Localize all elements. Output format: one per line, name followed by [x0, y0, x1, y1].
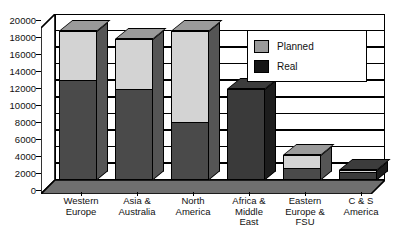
y-tick-label: 12000	[10, 84, 36, 94]
x-label-line: Africa &	[217, 196, 281, 207]
y-tick-label: 6000	[15, 135, 36, 145]
bar-front-face	[115, 39, 153, 180]
x-label-line: Eastern	[273, 196, 337, 207]
bar-side-face	[97, 22, 108, 180]
bar-western-europe[interactable]	[59, 31, 97, 180]
x-label-line: FSU	[273, 217, 337, 228]
x-label-line: Asia &	[105, 196, 169, 207]
y-tick-label: 4000	[15, 152, 36, 162]
legend: Planned Real	[247, 30, 367, 82]
bar-side-face	[153, 30, 164, 180]
bar-front-face	[171, 31, 209, 180]
y-tick-label: 2000	[15, 169, 36, 179]
bar-chart: 20000 18000 16000 14000 12000 10000 8000…	[0, 0, 397, 243]
bar-front-face	[283, 155, 321, 180]
legend-item-real[interactable]: Real	[254, 56, 360, 76]
x-label-line: East	[217, 217, 281, 228]
bar-side-face	[265, 80, 276, 180]
bar-segment-real[interactable]	[339, 172, 377, 180]
bar-front-face	[59, 31, 97, 180]
bar-c-s-america[interactable]	[339, 170, 377, 180]
bar-africa-middle-east[interactable]	[227, 89, 265, 180]
legend-swatch-real	[254, 60, 269, 73]
bar-asia-australia[interactable]	[115, 39, 153, 180]
x-label-line: America	[161, 207, 225, 218]
y-tick-label: 10000	[10, 101, 36, 111]
bar-front-face	[339, 170, 377, 180]
bar-side-face	[209, 22, 220, 180]
x-tick-label-western-europe: Western Europe	[49, 196, 113, 217]
axis-side-wall	[41, 14, 55, 194]
bar-segment-real[interactable]	[227, 89, 265, 180]
x-label-line: Europe	[49, 207, 113, 218]
legend-swatch-planned	[254, 40, 269, 53]
legend-label-real: Real	[277, 61, 298, 72]
x-axis: Western Europe Asia & Australia North Am…	[41, 196, 385, 243]
bar-segment-real[interactable]	[115, 89, 153, 180]
x-label-line: C & S	[329, 196, 393, 207]
y-tick-label: 16000	[10, 50, 36, 60]
bar-north-america[interactable]	[171, 31, 209, 180]
axis-floor	[41, 180, 385, 194]
x-label-line: North	[161, 196, 225, 207]
y-tick-label: 8000	[15, 118, 36, 128]
x-tick-label-asia-australia: Asia & Australia	[105, 196, 169, 217]
plot-area: Planned Real	[41, 14, 385, 194]
bar-segment-real[interactable]	[171, 122, 209, 180]
legend-item-planned[interactable]: Planned	[254, 36, 360, 56]
bar-segment-real[interactable]	[283, 168, 321, 180]
x-label-line: America	[329, 207, 393, 218]
bar-segment-planned[interactable]	[171, 31, 209, 122]
bar-segment-planned[interactable]	[115, 39, 153, 89]
y-tick-label: 20000	[10, 16, 36, 26]
y-tick-label: 14000	[10, 67, 36, 77]
bar-segment-real[interactable]	[59, 80, 97, 180]
bar-eastern-europe-fsu[interactable]	[283, 155, 321, 180]
x-label-line: Western	[49, 196, 113, 207]
y-axis: 20000 18000 16000 14000 12000 10000 8000…	[0, 0, 36, 243]
legend-label-planned: Planned	[277, 41, 314, 52]
bar-segment-planned[interactable]	[283, 155, 321, 167]
bar-segment-planned[interactable]	[59, 31, 97, 81]
x-tick-label-c-s-america: C & S America	[329, 196, 393, 217]
x-tick-label-north-america: North America	[161, 196, 225, 217]
x-tick-label-africa-middle-east: Africa & Middle East	[217, 196, 281, 228]
bar-front-face	[227, 89, 265, 180]
x-tick-label-eastern-europe-fsu: Eastern Europe & FSU	[273, 196, 337, 228]
x-label-line: Australia	[105, 207, 169, 218]
y-tick-label: 18000	[10, 33, 36, 43]
